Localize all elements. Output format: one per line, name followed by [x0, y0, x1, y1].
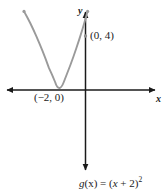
y-intercept-label: (0, 4): [90, 30, 114, 41]
x-axis-label: x: [156, 94, 161, 104]
curve-right-endpoint: [86, 10, 89, 13]
function-equation-label: g(x) = (x + 2)2: [79, 176, 142, 189]
parabola-curve: [24, 11, 87, 88]
y-intercept-point: [84, 34, 87, 37]
graph-figure: y x (0, 4) (−2, 0) g(x) = (x + 2)2: [0, 0, 167, 194]
equation-exponent: 2: [138, 175, 142, 184]
y-axis-label: y: [78, 6, 82, 16]
equation-argument: (x): [85, 177, 98, 189]
coordinate-plane: [0, 0, 167, 194]
equation-remainder: + 2): [118, 177, 139, 189]
equation-equals: = (: [97, 177, 112, 189]
vertex-label: (−2, 0): [34, 92, 64, 103]
curve-left-endpoint: [22, 10, 25, 13]
